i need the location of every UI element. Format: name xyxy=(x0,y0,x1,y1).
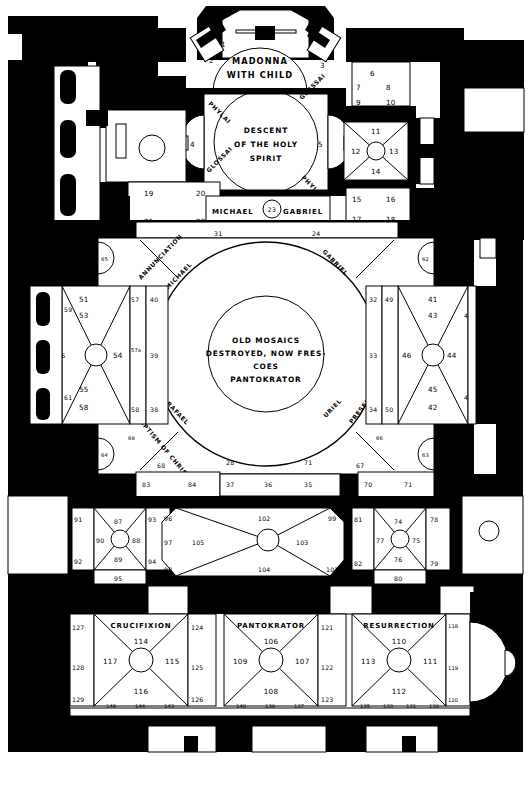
number-114: 114 xyxy=(134,637,149,646)
number-97: 97 xyxy=(164,539,172,546)
number-36: 36 xyxy=(264,481,272,488)
number-126: 126 xyxy=(191,696,203,703)
number-93: 93 xyxy=(148,516,156,523)
number-59: 59 xyxy=(64,306,72,313)
ne-vault-boss xyxy=(367,142,385,160)
madonna-caption-line1: MADONNA xyxy=(232,56,288,66)
ne-far-room xyxy=(464,88,524,132)
sb1-boss xyxy=(129,648,153,672)
number-39: 39 xyxy=(150,352,158,359)
number-42: 42 xyxy=(428,403,438,412)
south-base-line xyxy=(70,708,470,716)
number-12: 12 xyxy=(351,147,361,156)
number-82: 82 xyxy=(354,560,362,567)
ne-rooms-group: 6 7 8 9 10 11 12 13 14 15 16 17 18 xyxy=(340,28,524,240)
number-107: 107 xyxy=(295,657,310,666)
number-45: 45 xyxy=(428,385,438,394)
number-117: 117 xyxy=(103,657,118,666)
number-106: 106 xyxy=(264,637,279,646)
number-35: 35 xyxy=(304,481,312,488)
south-opening-1 xyxy=(148,586,188,614)
number-40: 40 xyxy=(150,296,158,303)
nw-cross-arm xyxy=(86,110,108,126)
number-62: 62 xyxy=(422,256,429,262)
east-light-slot xyxy=(480,238,496,258)
number-78: 78 xyxy=(430,516,438,523)
number-111: 111 xyxy=(423,657,438,666)
number-92: 92 xyxy=(74,558,82,565)
ring-number-71: 71 xyxy=(304,459,312,466)
west-strip-a xyxy=(130,286,146,424)
naos-corner-nw xyxy=(60,238,98,286)
crucifixion-caption: CRUCIFIXION xyxy=(110,622,171,630)
middle-left-void xyxy=(8,496,68,574)
number-16: 16 xyxy=(386,195,396,204)
west-pier-2 xyxy=(36,340,50,374)
west-vault-boss xyxy=(85,344,107,366)
number-128: 128 xyxy=(72,664,84,671)
mv-right-boss xyxy=(391,530,409,548)
number-118: 118 xyxy=(448,623,458,629)
east-pier-1 xyxy=(480,292,496,326)
number-53: 53 xyxy=(79,311,89,320)
naos-corner-sw xyxy=(60,424,98,474)
number-13: 13 xyxy=(389,147,399,156)
number-51: 51 xyxy=(79,295,89,304)
number-49: 49 xyxy=(385,296,393,303)
number-23: 23 xyxy=(268,206,276,213)
number-89: 89 xyxy=(114,556,122,563)
number-33: 33 xyxy=(369,352,377,359)
nw-small-wall xyxy=(104,76,116,102)
number-112: 112 xyxy=(392,687,407,696)
number-64: 64 xyxy=(101,452,108,458)
mv-left-boss xyxy=(111,530,129,548)
west-outer-block-s xyxy=(8,424,60,474)
number-58: 58 xyxy=(131,406,139,413)
nw-pier-3 xyxy=(60,174,76,216)
number-122: 122 xyxy=(321,664,333,671)
number-58b: 58 xyxy=(79,403,89,412)
number-90: 90 xyxy=(96,537,104,544)
middle-vaults-group: 91 92 87 90 88 89 95 93 94 102 96 97 105… xyxy=(8,496,523,586)
frame-nw-nub xyxy=(8,16,22,34)
naos-corner-ne xyxy=(434,238,474,286)
east-strip-b xyxy=(382,286,398,424)
ring-number-67: 67 xyxy=(356,462,364,469)
west-pier-1 xyxy=(36,292,50,326)
number-32: 32 xyxy=(369,296,377,303)
number-87: 87 xyxy=(114,518,122,525)
bay-center-102-104 xyxy=(162,508,344,576)
number-123: 123 xyxy=(321,696,333,703)
narthex-dome-group: 4 5 DESCENT OF THE HOLY SPIRIT PHYLAI GL… xyxy=(172,72,360,199)
number-98: 98 xyxy=(164,566,172,573)
number-84: 84 xyxy=(188,481,196,488)
south-opening-2 xyxy=(330,586,372,614)
number-9: 9 xyxy=(356,98,361,107)
ne-east-block xyxy=(434,118,464,188)
south-buttress-1 xyxy=(148,726,216,752)
number-116: 116 xyxy=(134,687,149,696)
sb3-boss xyxy=(387,648,411,672)
resurrection-caption: RESURRECTION xyxy=(363,622,435,630)
band-room-center xyxy=(220,474,340,496)
number-102: 102 xyxy=(258,515,270,522)
michael-label: MICHAEL xyxy=(212,208,254,216)
descent-caption-line1: DESCENT xyxy=(244,126,289,135)
number-57: 57 xyxy=(131,296,139,303)
number-83: 83 xyxy=(142,481,150,488)
number-61: 61 xyxy=(64,394,72,401)
number-121: 121 xyxy=(321,624,333,631)
number-20: 20 xyxy=(196,189,206,198)
number-50: 50 xyxy=(385,406,393,413)
dome-caption-line1: OLD MOSAICS xyxy=(232,336,300,345)
descent-caption-line2: OF THE HOLY xyxy=(234,140,298,149)
number-103: 103 xyxy=(296,539,308,546)
number-105: 105 xyxy=(192,539,204,546)
south-bays-group: 127 128 129 CRUCIFIXION 114 117 115 116 … xyxy=(8,586,523,752)
west-outer-block-n xyxy=(8,238,60,286)
number-76: 76 xyxy=(394,556,402,563)
east-gap xyxy=(468,286,476,424)
number-70: 70 xyxy=(364,481,372,488)
number-10: 10 xyxy=(386,98,396,107)
west-outer-wall xyxy=(8,286,30,424)
